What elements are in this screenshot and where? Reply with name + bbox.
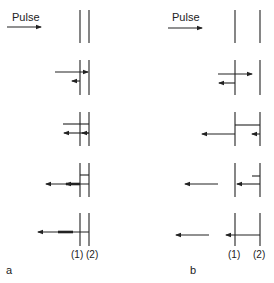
panel-b <box>168 10 260 246</box>
row-2 <box>218 60 260 95</box>
row-2 <box>55 60 89 95</box>
boundary-label-1-b: (1) <box>228 249 240 260</box>
row-5 <box>176 213 260 246</box>
pulse-label-b: Pulse <box>172 11 200 23</box>
pulse-reflection-diagram: Pulse (1) (2) a <box>0 0 274 283</box>
row-4 <box>185 163 260 197</box>
row-1 <box>80 10 89 43</box>
pulse-label-a: Pulse <box>12 11 40 23</box>
panel-label-a: a <box>6 264 13 276</box>
boundary-label-2-a: (2) <box>86 249 98 260</box>
row-5 <box>38 213 89 246</box>
panel-label-b: b <box>190 264 196 276</box>
boundary-label-1-a: (1) <box>71 249 83 260</box>
panel-a <box>7 10 89 246</box>
boundary-label-2-b: (2) <box>253 249 265 260</box>
row-3 <box>63 112 89 146</box>
row-3 <box>202 112 260 146</box>
row-4 <box>46 163 89 197</box>
row-1 <box>235 10 260 43</box>
